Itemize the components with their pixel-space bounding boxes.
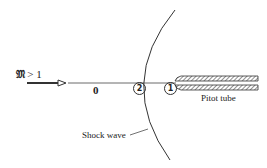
mach-symbol: 𝔐 xyxy=(16,69,25,80)
region-0-label: 0 xyxy=(93,85,99,96)
pitot-tube-icon xyxy=(175,76,258,90)
shock-leader-line xyxy=(130,129,148,135)
region-2-marker: 2 xyxy=(133,82,146,95)
pitot-tube-label: Pitot tube xyxy=(201,94,236,103)
mach-number-label: 𝔐 > 1 xyxy=(16,69,42,80)
shock-wave-label: Shock wave xyxy=(82,131,126,140)
flow-arrow-icon xyxy=(27,80,66,86)
mach-relation: > 1 xyxy=(25,68,42,80)
region-1-marker: 1 xyxy=(164,82,177,95)
